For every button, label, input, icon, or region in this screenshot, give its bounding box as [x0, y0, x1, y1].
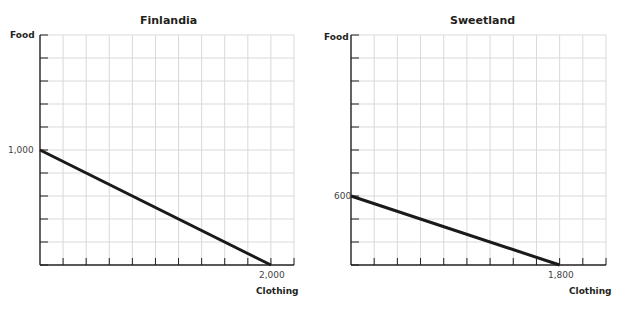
y-tick-label: 1,000 — [8, 145, 34, 155]
x-tick-label: 2,000 — [259, 270, 285, 280]
sweetland-plot — [310, 0, 619, 311]
x-axis-label: Clothing — [256, 286, 299, 296]
y-axis-label: Food — [10, 30, 35, 40]
finlandia-plot — [0, 0, 310, 311]
sweetland-chart: Sweetland Food 600 1,800 Clothing — [310, 0, 619, 311]
chart-title: Finlandia — [140, 14, 197, 27]
y-axis-label: Food — [324, 32, 349, 42]
y-tick-label: 600 — [334, 191, 351, 201]
x-tick-label: 1,800 — [548, 270, 574, 280]
ppf-line — [351, 196, 560, 265]
chart-title: Sweetland — [450, 14, 515, 27]
x-axis-label: Clothing — [569, 286, 612, 296]
finlandia-chart: Finlandia Food 1,000 2,000 Clothing — [0, 0, 310, 311]
